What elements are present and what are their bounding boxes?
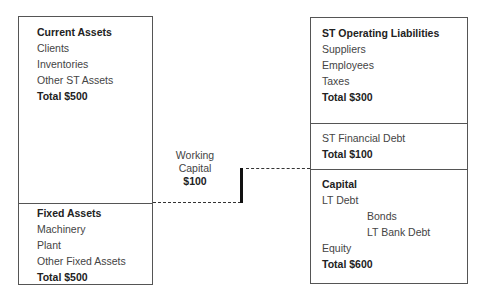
- fixed-assets-title: Fixed Assets: [37, 205, 126, 221]
- capital-total: Total $600: [322, 256, 430, 272]
- equity-label: Equity: [322, 240, 430, 256]
- capital-dashed-connector: [246, 168, 310, 169]
- current-assets-item: Clients: [37, 40, 113, 56]
- fixed-assets-section: Fixed Assets Machinery Plant Other Fixed…: [19, 203, 152, 284]
- assets-box: Current Assets Clients Inventories Other…: [18, 16, 153, 285]
- st-financial-debt-section: ST Financial Debt Total $100: [311, 123, 467, 169]
- st-operating-item: Suppliers: [322, 41, 439, 57]
- fixed-assets-total: Total $500: [37, 269, 126, 285]
- st-operating-item: Employees: [322, 57, 439, 73]
- liabilities-box: ST Operating Liabilities Suppliers Emplo…: [310, 17, 468, 284]
- lt-debt-label: LT Debt: [322, 192, 430, 208]
- st-operating-total: Total $300: [322, 89, 439, 105]
- working-capital-label: Working Capital $100: [155, 149, 235, 188]
- capital-title: Capital: [322, 176, 430, 192]
- st-operating-item: Taxes: [322, 73, 439, 89]
- lt-debt-item: Bonds: [322, 208, 430, 224]
- current-assets-item: Inventories: [37, 56, 113, 72]
- st-operating-liabilities-title: ST Operating Liabilities: [322, 25, 439, 41]
- st-financial-debt-total: Total $100: [322, 146, 405, 162]
- fixed-assets-item: Plant: [37, 237, 126, 253]
- capital-section: Capital LT Debt Bonds LT Bank Debt Equit…: [311, 169, 467, 283]
- st-financial-debt-title: ST Financial Debt: [322, 130, 405, 146]
- lt-debt-item: LT Bank Debt: [322, 224, 430, 240]
- current-assets-section: Current Assets Clients Inventories Other…: [19, 17, 152, 203]
- fixed-assets-dashed-connector: [153, 202, 241, 203]
- working-capital-value: $100: [155, 175, 235, 188]
- st-operating-liabilities-section: ST Operating Liabilities Suppliers Emplo…: [311, 18, 467, 123]
- working-capital-line1: Working: [155, 149, 235, 162]
- current-assets-title: Current Assets: [37, 24, 113, 40]
- working-capital-bar: [240, 168, 243, 203]
- current-assets-total: Total $500: [37, 88, 113, 104]
- current-assets-item: Other ST Assets: [37, 72, 113, 88]
- working-capital-line2: Capital: [155, 162, 235, 175]
- fixed-assets-item: Other Fixed Assets: [37, 253, 126, 269]
- fixed-assets-item: Machinery: [37, 221, 126, 237]
